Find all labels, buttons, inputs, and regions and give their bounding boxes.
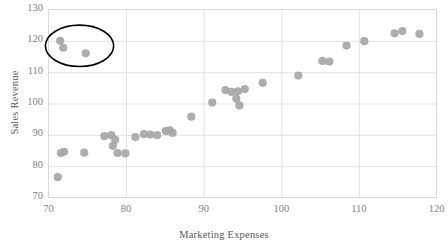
scatter-point xyxy=(80,149,88,157)
x-axis-title: Marketing Expenses xyxy=(0,229,448,240)
scatter-point xyxy=(234,87,242,95)
scatter-point xyxy=(59,44,67,52)
scatter-point xyxy=(325,57,333,65)
scatter-point xyxy=(187,113,195,121)
y-tick-label: 100 xyxy=(17,96,43,107)
x-tick-label: 110 xyxy=(339,203,379,214)
scatter-point xyxy=(131,133,139,141)
scatter-point xyxy=(208,98,216,106)
outlier-highlight-circle xyxy=(45,25,113,66)
scatter-chart: Sales Revenue Marketing Expenses 1301201… xyxy=(0,0,448,251)
y-tick-label: 80 xyxy=(17,159,43,170)
scatter-point xyxy=(342,41,350,49)
x-tick-label: 100 xyxy=(261,203,301,214)
scatter-point xyxy=(82,49,90,57)
annotation-shapes xyxy=(45,25,113,66)
y-tick-label: 120 xyxy=(17,33,43,44)
scatter-point xyxy=(153,131,161,139)
scatter-point xyxy=(259,79,267,87)
scatter-point xyxy=(360,37,368,45)
y-tick-label: 90 xyxy=(17,127,43,138)
x-tick-label: 90 xyxy=(184,203,224,214)
scatter-point xyxy=(111,136,119,144)
scatter-point xyxy=(100,132,108,140)
scatter-point xyxy=(294,72,302,80)
scatter-point xyxy=(54,173,62,181)
scatter-point xyxy=(241,85,249,93)
scatter-point xyxy=(318,57,326,65)
scatter-point xyxy=(113,149,121,157)
scatter-point xyxy=(146,130,154,138)
scatter-point xyxy=(235,101,243,109)
x-tick-label: 80 xyxy=(106,203,146,214)
scatter-point xyxy=(121,149,129,157)
scatter-point xyxy=(415,30,423,38)
scatter-point xyxy=(391,29,399,37)
y-tick-label: 70 xyxy=(17,190,43,201)
y-tick-label: 110 xyxy=(17,65,43,76)
x-tick-label: 120 xyxy=(417,203,448,214)
x-tick-label: 70 xyxy=(29,203,69,214)
scatter-point xyxy=(398,27,406,35)
scatter-point xyxy=(60,148,68,156)
scatter-point xyxy=(169,129,177,137)
y-tick-label: 130 xyxy=(17,2,43,13)
